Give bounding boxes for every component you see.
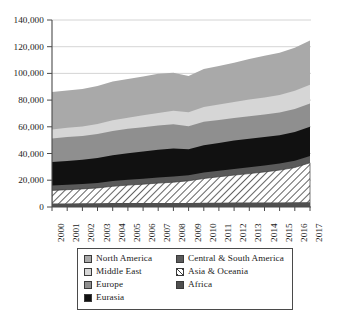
legend-row: Eurasia bbox=[84, 291, 288, 304]
x-tick-label-2005: 2005 bbox=[132, 223, 142, 242]
y-tick-label-80000: 80,000 bbox=[0, 95, 44, 105]
x-tick-label-2004: 2004 bbox=[117, 223, 127, 242]
legend-label-central-south-america: Central & South America bbox=[188, 252, 284, 265]
legend-item-europe[interactable]: Europe bbox=[84, 278, 176, 291]
chart-figure: 140,000 120,000 100,000 80,000 60,000 40… bbox=[0, 0, 337, 324]
y-tick-marks bbox=[47, 20, 52, 207]
legend-row: North America Central & South America bbox=[84, 252, 288, 265]
legend-swatch-africa bbox=[176, 281, 184, 289]
legend-item-africa[interactable]: Africa bbox=[176, 278, 212, 291]
x-tick-label-2001: 2001 bbox=[71, 223, 81, 242]
legend-row: Middle East Asia & Oceania bbox=[84, 265, 288, 278]
legend-item-middle-east[interactable]: Middle East bbox=[84, 265, 176, 278]
x-tick-label-2003: 2003 bbox=[102, 223, 112, 242]
x-tick-label-2013: 2013 bbox=[253, 223, 263, 242]
y-tick-label-60000: 60,000 bbox=[0, 122, 44, 132]
x-tick-label-2010: 2010 bbox=[208, 223, 218, 242]
legend-swatch-north-america bbox=[84, 255, 92, 263]
x-tick-label-2014: 2014 bbox=[269, 223, 279, 242]
legend-label-asia-oceania: Asia & Oceania bbox=[188, 265, 248, 278]
chart-legend: North America Central & South America Mi… bbox=[77, 248, 293, 310]
x-tick-label-2016: 2016 bbox=[299, 223, 309, 242]
legend-swatch-europe bbox=[84, 281, 92, 289]
y-tick-label-20000: 20,000 bbox=[0, 175, 44, 185]
legend-swatch-asia-oceania bbox=[176, 268, 184, 276]
legend-item-eurasia[interactable]: Eurasia bbox=[84, 291, 176, 304]
x-tick-label-2011: 2011 bbox=[223, 224, 233, 242]
x-tick-label-2007: 2007 bbox=[162, 223, 172, 242]
legend-swatch-eurasia bbox=[84, 294, 92, 302]
x-tick-label-2000: 2000 bbox=[56, 223, 66, 242]
legend-item-asia-oceania[interactable]: Asia & Oceania bbox=[176, 265, 248, 278]
legend-label-africa: Africa bbox=[188, 278, 212, 291]
x-tick-label-2009: 2009 bbox=[193, 223, 203, 242]
x-tick-label-2008: 2008 bbox=[177, 223, 187, 242]
legend-swatch-middle-east bbox=[84, 268, 92, 276]
legend-item-central-south-america[interactable]: Central & South America bbox=[176, 252, 284, 265]
y-tick-label-100000: 100,000 bbox=[0, 68, 44, 78]
y-tick-label-40000: 40,000 bbox=[0, 149, 44, 159]
x-tick-label-2002: 2002 bbox=[86, 223, 96, 242]
x-tick-label-2015: 2015 bbox=[284, 223, 294, 242]
y-tick-label-120000: 120,000 bbox=[0, 42, 44, 52]
x-tick-label-2012: 2012 bbox=[238, 223, 248, 242]
x-tick-marks bbox=[52, 207, 310, 211]
x-tick-label-2017: 2017 bbox=[314, 223, 324, 242]
legend-label-eurasia: Eurasia bbox=[96, 291, 124, 304]
y-tick-label-0: 0 bbox=[0, 202, 44, 212]
legend-label-north-america: North America bbox=[96, 252, 152, 265]
legend-item-north-america[interactable]: North America bbox=[84, 252, 176, 265]
legend-label-europe: Europe bbox=[96, 278, 123, 291]
y-tick-label-140000: 140,000 bbox=[0, 15, 44, 25]
legend-label-middle-east: Middle East bbox=[96, 265, 142, 278]
legend-swatch-central-south-america bbox=[176, 255, 184, 263]
x-tick-label-2006: 2006 bbox=[147, 223, 157, 242]
legend-row: Europe Africa bbox=[84, 278, 288, 291]
